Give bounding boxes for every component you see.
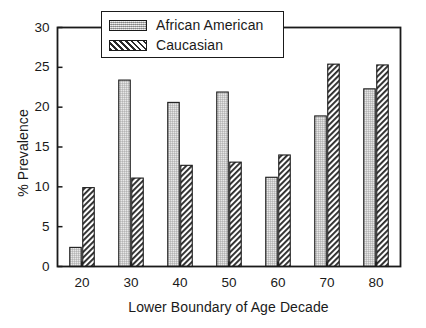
x-tick-label: 50 — [209, 276, 249, 290]
bar-african-american — [364, 89, 376, 267]
x-tick-label: 70 — [307, 276, 347, 290]
bar-african-american — [168, 102, 180, 266]
legend-label-caucasian: Caucasian — [156, 37, 223, 53]
chart-legend: African American Caucasian — [101, 11, 284, 58]
bar-african-american — [266, 177, 278, 266]
y-tick-label: 20 — [16, 100, 50, 114]
bar-african-american — [70, 247, 82, 266]
y-tick-label: 25 — [16, 60, 50, 74]
y-tick-label: 15 — [16, 140, 50, 154]
x-tick-label: 60 — [258, 276, 298, 290]
bar-caucasian — [377, 65, 389, 267]
y-tick-label: 30 — [16, 21, 50, 35]
bar-african-american — [315, 116, 327, 267]
bar-african-american — [119, 80, 131, 266]
bar-caucasian — [181, 165, 193, 266]
x-tick-label: 80 — [356, 276, 396, 290]
bar-caucasian — [83, 188, 95, 267]
plot-border — [58, 28, 401, 267]
bar-caucasian — [230, 162, 242, 266]
bar-african-american — [217, 92, 229, 266]
bar-chart-figure: % Prevalence Lower Boundary of Age Decad… — [0, 0, 426, 328]
legend-entry-african-american: African American — [109, 15, 263, 35]
plot-frame — [58, 28, 401, 267]
bars-layer — [70, 64, 389, 266]
legend-entry-caucasian: Caucasian — [109, 35, 223, 55]
legend-swatch-african-american — [109, 20, 147, 31]
bar-caucasian — [328, 64, 340, 266]
y-tick-label: 10 — [16, 180, 50, 194]
y-tick-label: 0 — [16, 260, 50, 274]
x-tick-label: 20 — [62, 276, 102, 290]
x-tick-label: 40 — [160, 276, 200, 290]
y-tick-label: 5 — [16, 220, 50, 234]
legend-swatch-caucasian — [109, 40, 147, 51]
bar-caucasian — [279, 155, 291, 267]
x-tick-label: 30 — [111, 276, 151, 290]
legend-label-african-american: African American — [156, 17, 263, 33]
bar-caucasian — [132, 178, 144, 266]
